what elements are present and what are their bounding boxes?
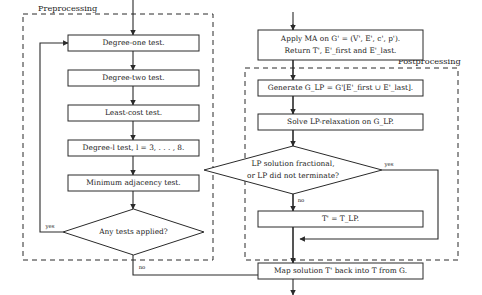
edge-label-lp-check-yes: yes [383, 161, 393, 168]
node-degree-l-test-label: Degree-l test, l = 3, . . . , 8. [83, 143, 185, 152]
group-preprocessing-label: Preprocessing [38, 3, 97, 13]
edge-any-tests-yes-loop [40, 43, 68, 232]
node-generate-glp-label: Generate G_LP = G'[E'_first ∪ E'_last]. [268, 83, 413, 92]
flowchart-canvas: Preprocessing Postprocessing yes no Degr… [0, 0, 482, 295]
node-least-cost-test-label: Least-cost test. [105, 108, 162, 117]
edge-label-any-tests-no: no [139, 264, 146, 270]
edge-label-any-tests-yes: yes [44, 223, 54, 230]
node-lp-check-label-line1: LP solution fractional, [252, 159, 335, 168]
node-minimum-adjacency-test-label: Minimum adjacency test. [86, 178, 180, 187]
node-map-solution-label: Map solution T' back into T from G. [274, 266, 407, 275]
node-assign-tlp-label: T' = T_LP. [322, 214, 359, 223]
node-apply-ma-label-line2: Return T', E'_first and E'_last. [285, 46, 397, 55]
node-solve-lp-relaxation-label: Solve LP-relaxation on G_LP. [287, 117, 394, 126]
node-any-tests-applied-label: Any tests applied? [98, 227, 168, 236]
node-degree-one-test-label: Degree-one test. [102, 38, 164, 47]
node-lp-check-label-line2: or LP did not terminate? [247, 171, 339, 180]
node-apply-ma-label-line1: Apply MA on G' = (V', E', c', p'). [280, 34, 400, 43]
flowchart-svg: Preprocessing Postprocessing yes no Degr… [0, 0, 482, 295]
edge-label-lp-check-no: no [298, 197, 305, 203]
node-degree-two-test-label: Degree-two test. [102, 73, 164, 82]
